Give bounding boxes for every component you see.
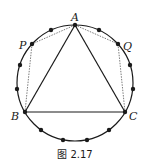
dot: [85, 138, 89, 142]
dot: [18, 63, 22, 67]
circle-points: [15, 23, 135, 142]
point-Q: [116, 42, 120, 46]
point-B: [23, 110, 27, 114]
figure-caption: 图 2.17: [57, 149, 92, 160]
label-Q: Q: [123, 40, 132, 53]
point-C: [123, 110, 127, 114]
triangle-ABC: [25, 25, 125, 112]
geometry-diagram: A P Q B C 图 2.17: [0, 0, 150, 167]
dot: [107, 128, 111, 132]
segment-AB: [25, 25, 75, 112]
dashed-lines: [25, 25, 125, 112]
label-B: B: [10, 110, 19, 123]
dot: [49, 28, 53, 32]
point-P: [30, 42, 34, 46]
dot: [15, 87, 19, 91]
circumcircle: [17, 25, 133, 141]
segment-AP: [32, 25, 75, 44]
segment-AQ: [75, 25, 118, 44]
dot: [131, 87, 135, 91]
dot: [128, 63, 132, 67]
dot: [97, 28, 101, 32]
label-C: C: [129, 110, 138, 123]
dot: [39, 128, 43, 132]
segment-CA: [75, 25, 125, 112]
label-A: A: [70, 11, 79, 24]
dot: [61, 138, 65, 142]
label-P: P: [18, 39, 27, 52]
